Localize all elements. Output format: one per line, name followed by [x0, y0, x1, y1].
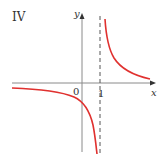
curve-right-branch [105, 19, 150, 79]
tick-label-1: 1 [98, 89, 104, 99]
x-axis-arrow-icon [150, 81, 156, 86]
x-axis-label: x [151, 88, 157, 98]
panel-label: IV [12, 11, 25, 23]
curve-left-branch [12, 88, 97, 154]
graph-figure: IV y x 0 1 [0, 0, 164, 164]
origin-label: 0 [73, 87, 79, 97]
y-axis-label: y [74, 9, 80, 19]
y-axis-arrow-icon [80, 13, 85, 19]
graph-canvas [0, 0, 164, 164]
